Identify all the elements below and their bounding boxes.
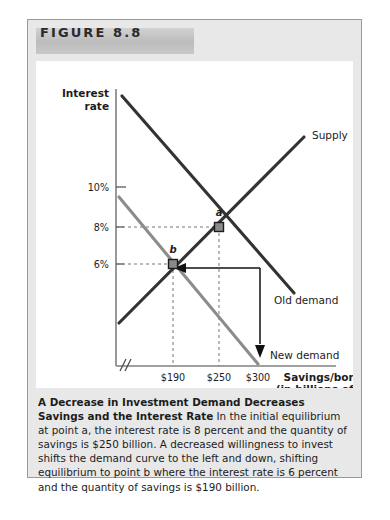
figure-number-label: FIGURE 8.8 bbox=[40, 25, 142, 40]
x-tick-label-250: $250 bbox=[207, 372, 231, 383]
x-tick-label-190: $190 bbox=[161, 372, 185, 383]
figure-caption: A Decrease in Investment Demand Decrease… bbox=[38, 395, 354, 494]
demand-shift-arrow bbox=[174, 263, 260, 273]
old-demand-curve-label: Old demand bbox=[274, 294, 338, 306]
axis-break-icon bbox=[120, 359, 131, 371]
x-axis-title-line2: (in billions of dollars) bbox=[276, 383, 353, 388]
old-demand-curve bbox=[122, 96, 294, 293]
intercept-shift-arrow bbox=[255, 268, 265, 358]
equilibrium-marker-b bbox=[169, 260, 178, 269]
y-tick-label-8: 8% bbox=[94, 222, 109, 233]
y-tick-label-10: 10% bbox=[88, 182, 109, 193]
equilibrium-label-b: b bbox=[169, 244, 176, 255]
x-axis-title-line1: Savings/borrowing bbox=[284, 371, 353, 383]
figure-box: FIGURE 8.8 10% 8% 6% bbox=[27, 19, 362, 478]
new-demand-curve-label: New demand bbox=[270, 349, 339, 361]
y-tick-label-6: 6% bbox=[94, 259, 109, 270]
caption-body: In the initial equilibrium at point a, t… bbox=[38, 410, 347, 492]
y-axis-title-line1: Interest bbox=[62, 87, 109, 99]
supply-curve-label: Supply bbox=[312, 129, 348, 141]
equilibrium-marker-a bbox=[215, 223, 224, 232]
new-demand-curve bbox=[119, 197, 258, 364]
plot-card: 10% 8% 6% bbox=[36, 61, 353, 388]
x-tick-label-300: $300 bbox=[246, 372, 270, 383]
supply-demand-chart: 10% 8% 6% bbox=[36, 61, 353, 388]
equilibrium-label-a: a bbox=[216, 207, 223, 218]
y-axis-title-line2: rate bbox=[85, 100, 109, 112]
